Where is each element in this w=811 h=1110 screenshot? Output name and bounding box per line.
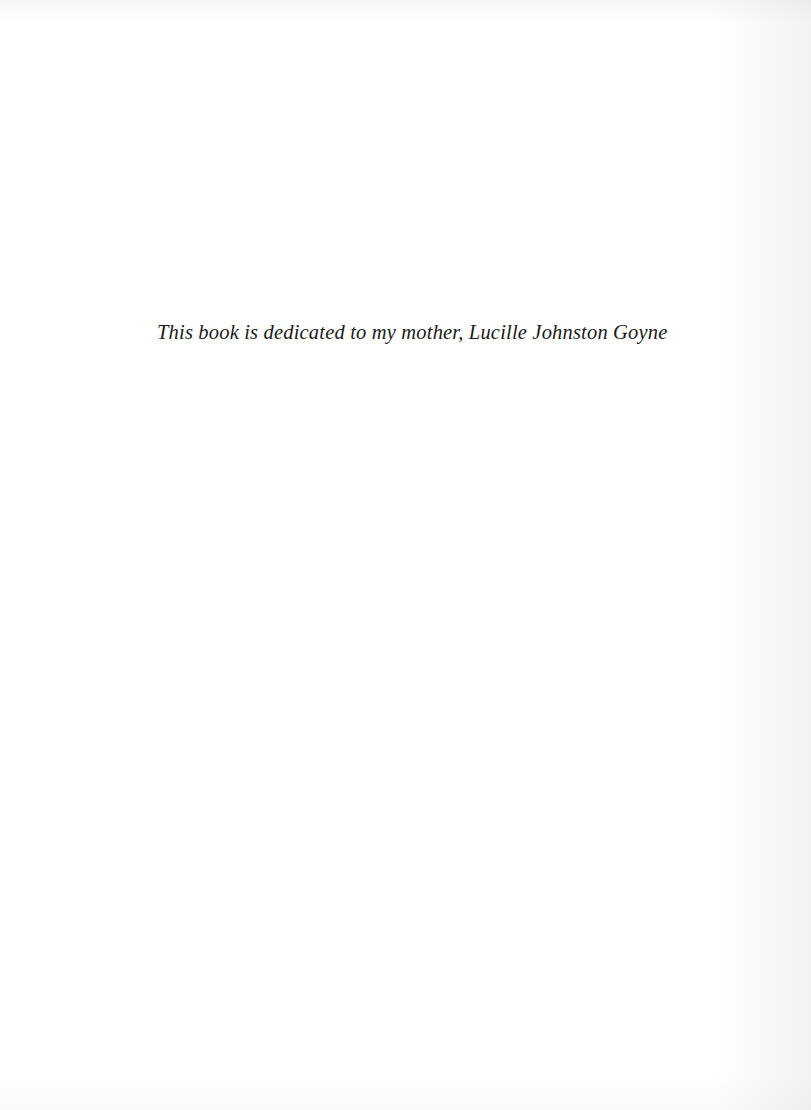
scan-edge-shading-right <box>681 0 811 1110</box>
scan-edge-shading-top <box>0 0 811 26</box>
scan-edge-shading-bottom <box>0 1070 811 1110</box>
dedication-text: This book is dedicated to my mother, Luc… <box>157 320 597 346</box>
scanned-page: This book is dedicated to my mother, Luc… <box>0 0 811 1110</box>
dedication-block: This book is dedicated to my mother, Luc… <box>157 320 597 346</box>
